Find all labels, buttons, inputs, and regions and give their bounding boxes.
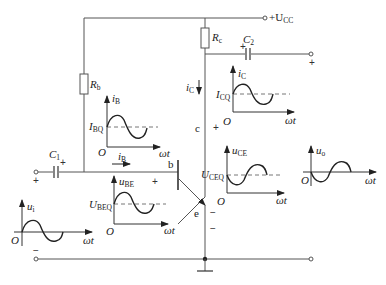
svg-text:c: c — [195, 122, 200, 134]
svg-text:Rb: Rb — [89, 78, 101, 92]
svg-text:ωt: ωt — [159, 147, 171, 159]
graph-uce: uCE UCEQ O ωt — [201, 144, 288, 207]
resistor-rb — [80, 74, 88, 94]
svg-text:+: + — [33, 175, 39, 186]
svg-text:uCE: uCE — [232, 144, 248, 158]
svg-text:Rc: Rc — [211, 31, 223, 45]
graph-ube: uBE UBEQ O ωt — [89, 175, 176, 237]
svg-text:b: b — [168, 158, 174, 170]
svg-text:+: + — [213, 122, 219, 133]
svg-text:C1: C1 — [49, 148, 60, 162]
svg-text:ICQ: ICQ — [215, 88, 231, 102]
graph-ib: iB IBQ O ωt — [88, 92, 171, 159]
graph-ic: iC ICQ O ωt — [215, 66, 297, 127]
svg-text:+: + — [240, 41, 246, 52]
svg-text:UBEQ: UBEQ — [89, 198, 113, 212]
circuit-diagram: +UCC Rb Rc C1 C2 iC iB b c e + + − − + +… — [0, 0, 386, 285]
svg-text:IBQ: IBQ — [88, 120, 104, 134]
svg-text:e: e — [194, 207, 199, 219]
svg-text:−: − — [210, 207, 216, 218]
svg-text:iC: iC — [186, 81, 194, 95]
capacitor-c1 — [54, 166, 58, 178]
svg-text:ui: ui — [27, 200, 35, 214]
svg-text:iB: iB — [112, 92, 120, 106]
svg-text:+UCC: +UCC — [269, 11, 293, 25]
svg-text:O: O — [301, 174, 309, 186]
svg-text:+: + — [152, 176, 158, 187]
svg-text:ωt: ωt — [365, 174, 377, 186]
graph-ui: ui O ωt — [11, 200, 95, 246]
graph-uo: uo O ωt — [301, 144, 377, 186]
svg-text:O: O — [106, 225, 114, 237]
svg-text:uo: uo — [316, 144, 326, 158]
resistor-rc — [201, 28, 209, 48]
svg-text:O: O — [98, 146, 106, 158]
svg-text:O: O — [223, 115, 231, 127]
svg-text:O: O — [11, 234, 19, 246]
capacitor-c2 — [246, 48, 250, 60]
svg-text:iC: iC — [238, 67, 246, 81]
svg-text:UCEQ: UCEQ — [201, 168, 225, 182]
svg-text:+: + — [309, 57, 315, 68]
svg-text:−: − — [33, 245, 39, 256]
svg-text:+: + — [60, 157, 66, 168]
svg-text:−: − — [210, 223, 216, 234]
svg-text:ωt: ωt — [285, 114, 297, 126]
svg-text:ωt: ωt — [276, 194, 288, 206]
labels: +UCC Rb Rc C1 C2 iC iB b c e + + − − + +… — [33, 11, 315, 256]
svg-text:ωt: ωt — [83, 234, 95, 246]
svg-text:iB: iB — [118, 150, 126, 164]
svg-text:uBE: uBE — [119, 175, 135, 189]
svg-text:O: O — [217, 195, 225, 207]
svg-text:ωt: ωt — [164, 224, 176, 236]
